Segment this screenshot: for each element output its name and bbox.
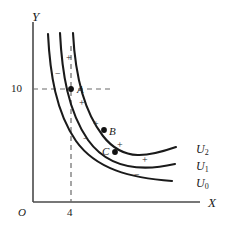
point-dot-b <box>101 127 107 133</box>
point-dot-a <box>68 86 74 92</box>
point-label-c: C <box>102 146 109 157</box>
sign-plus-2: + <box>79 98 85 108</box>
curve-label-u2-sub: 2 <box>205 148 209 157</box>
curve-label-u2: U2 <box>196 143 209 155</box>
curve-label-u1-sub: 1 <box>205 165 209 174</box>
y-axis-label: Y <box>32 10 39 23</box>
sign-plus-4: + <box>117 140 123 150</box>
y-tick-label-10: 10 <box>11 83 22 94</box>
point-label-b: B <box>109 126 116 137</box>
sign-plus-1: + <box>66 53 72 63</box>
curve-label-u1-base: U <box>196 159 205 173</box>
sign-minus-1: − <box>55 69 61 79</box>
origin-label: O <box>18 207 26 218</box>
sign-minus-3: − <box>134 170 140 180</box>
curve-label-u0: U0 <box>196 177 209 189</box>
curve-label-u1: U1 <box>196 160 209 172</box>
point-label-a: A <box>77 84 84 95</box>
curve-label-u0-base: U <box>196 176 205 190</box>
sign-minus-2: − <box>83 134 89 144</box>
x-axis-label: X <box>208 196 216 209</box>
x-tick-label-4: 4 <box>67 207 73 218</box>
plot-canvas <box>0 0 231 240</box>
indifference-curve-figure: Y X O 10 4 A B C U2 U1 U0 + − + + − + + … <box>0 0 231 240</box>
curve-label-u0-sub: 0 <box>205 182 209 191</box>
sign-plus-5: + <box>142 155 148 165</box>
sign-plus-3: + <box>93 119 99 129</box>
curve-label-u2-base: U <box>196 142 205 156</box>
